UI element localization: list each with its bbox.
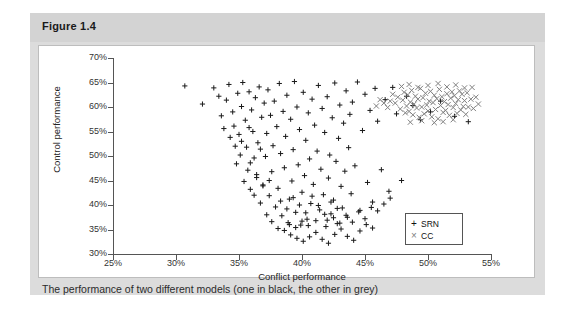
chart-legend: + SRN × CC	[405, 213, 463, 245]
plus-marker-icon: +	[410, 219, 418, 229]
chart-panel: 30%35%40%45%50%55%60%65%70% 25%30%35%40%…	[38, 45, 535, 278]
scatter-plot: 30%35%40%45%50%55%60%65%70% 25%30%35%40%…	[39, 46, 534, 277]
figure-caption: The performance of two different models …	[42, 283, 537, 295]
series-cc	[374, 81, 481, 125]
legend-entry-srn: + SRN	[410, 219, 439, 229]
legend-label-srn: SRN	[421, 220, 439, 229]
cross-marker-icon: ×	[410, 231, 418, 241]
legend-label-cc: CC	[421, 232, 433, 241]
figure-title-bar: Figure 1.4	[30, 13, 545, 42]
figure-card: Figure 1.4 30%35%40%45%50%55%60%65%70% 2…	[30, 13, 545, 295]
figure-title: Figure 1.4	[42, 20, 96, 32]
legend-entry-cc: × CC	[410, 231, 433, 241]
